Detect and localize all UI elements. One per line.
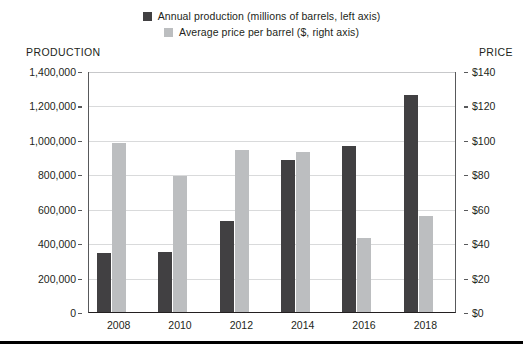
right-axis-ticks: $140$120$100$80$60$40$20$0 <box>464 72 523 313</box>
legend-swatch-price <box>164 28 173 37</box>
x-axis-label: 2010 <box>149 319 210 331</box>
left-axis-title: PRODUCTION <box>26 46 101 58</box>
bar-group <box>212 72 273 312</box>
right-tick-label: $140 <box>472 67 495 77</box>
bar-group <box>396 72 457 312</box>
left-tick-label: 200,000 <box>38 274 76 284</box>
right-tick-mark <box>464 106 468 107</box>
bar-price <box>296 152 310 312</box>
right-tick-label: $20 <box>472 274 490 284</box>
left-tick-mark <box>78 175 82 176</box>
right-tick-mark <box>464 244 468 245</box>
legend-item-price: Average price per barrel ($, right axis) <box>164 25 359 39</box>
bar-price <box>173 176 187 312</box>
x-axis-label: 2012 <box>211 319 272 331</box>
bar-series-container <box>89 72 455 312</box>
right-tick-label: $100 <box>472 136 495 146</box>
bar-production <box>220 221 234 312</box>
left-tick-mark <box>78 279 82 280</box>
left-tick-mark <box>78 106 82 107</box>
legend-swatch-production <box>143 12 152 21</box>
x-axis-label: 2018 <box>395 319 456 331</box>
left-tick-label: 600,000 <box>38 205 76 215</box>
bar-price <box>235 150 249 312</box>
x-axis-labels: 200820102012201420162018 <box>88 319 456 335</box>
plot-area <box>88 72 456 313</box>
left-tick-mark <box>78 141 82 142</box>
left-tick-label: 0 <box>70 308 76 318</box>
left-tick-mark <box>78 313 82 314</box>
left-tick-mark <box>78 210 82 211</box>
bar-group <box>334 72 395 312</box>
left-tick-mark <box>78 72 82 73</box>
right-tick-mark <box>464 72 468 73</box>
right-tick-label: $120 <box>472 101 495 111</box>
left-tick-label: 800,000 <box>38 170 76 180</box>
x-axis-label: 2008 <box>88 319 149 331</box>
bar-group <box>150 72 211 312</box>
right-tick-mark <box>464 313 468 314</box>
bar-production <box>158 252 172 312</box>
bar-production <box>97 253 111 312</box>
left-tick-label: 1,400,000 <box>29 67 76 77</box>
legend-item-production: Annual production (millions of barrels, … <box>143 9 381 23</box>
left-axis-ticks: 1,400,0001,200,0001,000,000800,000600,00… <box>0 72 82 313</box>
chart-legend: Annual production (millions of barrels, … <box>0 9 523 39</box>
right-tick-mark <box>464 210 468 211</box>
left-tick-mark <box>78 244 82 245</box>
bar-group <box>89 72 150 312</box>
left-tick-label: 400,000 <box>38 239 76 249</box>
right-tick-label: $0 <box>472 308 484 318</box>
right-tick-mark <box>464 175 468 176</box>
bottom-divider <box>0 341 523 344</box>
right-tick-mark <box>464 279 468 280</box>
bar-production <box>342 146 356 312</box>
x-axis-label: 2016 <box>333 319 394 331</box>
bar-price <box>419 216 433 312</box>
bar-production <box>281 160 295 312</box>
right-tick-label: $40 <box>472 239 490 249</box>
left-tick-label: 1,200,000 <box>29 101 76 111</box>
right-axis-title: PRICE <box>479 46 513 58</box>
bar-price <box>112 143 126 312</box>
bar-production <box>404 95 418 312</box>
chart-figure: Annual production (millions of barrels, … <box>0 0 523 357</box>
right-tick-label: $60 <box>472 205 490 215</box>
bar-price <box>357 238 371 312</box>
x-axis-label: 2014 <box>272 319 333 331</box>
right-tick-mark <box>464 141 468 142</box>
legend-label-production: Annual production (millions of barrels, … <box>158 10 381 22</box>
left-tick-label: 1,000,000 <box>29 136 76 146</box>
bar-group <box>273 72 334 312</box>
right-tick-label: $80 <box>472 170 490 180</box>
legend-label-price: Average price per barrel ($, right axis) <box>179 26 359 38</box>
